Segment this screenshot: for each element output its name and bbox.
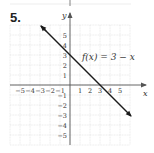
function-line-segment	[41, 26, 131, 116]
function-label: f(x) = 3 − x	[81, 52, 135, 62]
function-line	[41, 26, 131, 116]
y-tick-label: 2	[63, 62, 67, 70]
y-tick-label: 3	[63, 52, 67, 60]
x-tick-label: 1	[78, 87, 82, 95]
y-tick-label: −5	[57, 132, 67, 140]
y-tick-label: 5	[63, 32, 67, 40]
x-axis-label: x	[143, 89, 148, 98]
function-line-arrow-start	[41, 26, 46, 31]
y-tick-label: −3	[57, 112, 67, 120]
y-tick-label: −2	[57, 102, 67, 110]
y-tick-label: 1	[63, 72, 67, 80]
x-tick-label: −5	[15, 87, 25, 95]
previous-graph-remnant	[10, 0, 131, 6]
y-tick-label: −4	[57, 122, 67, 130]
x-tick-label: −3	[35, 87, 45, 95]
y-axis-label: y	[61, 11, 67, 20]
x-tick-label: 2	[88, 87, 92, 95]
function-graph: xy −5−4−3−2−112345−5−4−3−2−112345 f(x) =…	[0, 0, 154, 153]
x-tick-label: −2	[45, 87, 55, 95]
tick-labels: −5−4−3−2−112345−5−4−3−2−112345	[15, 32, 122, 140]
x-tick-label: 5	[118, 87, 122, 95]
y-tick-label: −1	[57, 92, 67, 100]
x-tick-label: −4	[25, 87, 35, 95]
x-tick-label: 3	[98, 87, 102, 95]
